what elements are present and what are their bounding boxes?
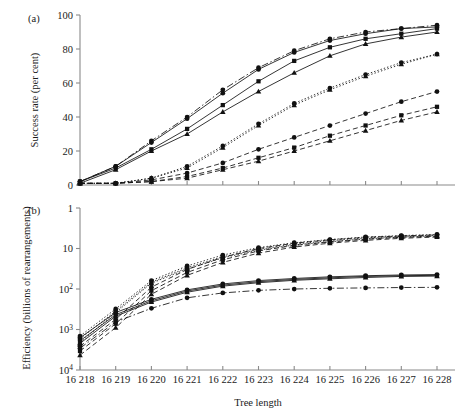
x-axis-tick-label: 16 222 bbox=[208, 374, 237, 385]
data-point-circle bbox=[113, 320, 118, 325]
x-axis-tick-label: 16 220 bbox=[137, 374, 166, 385]
data-point-circle bbox=[292, 135, 297, 140]
x-axis-label: Tree length bbox=[234, 397, 282, 408]
data-point-square bbox=[363, 37, 367, 41]
x-axis-tick-label: 16 219 bbox=[101, 374, 130, 385]
panel-a-y-axis-label: Success rate (per cent) bbox=[29, 52, 41, 147]
x-axis-tick-label: 16 221 bbox=[173, 374, 202, 385]
x-axis-tick-label: 16 225 bbox=[315, 374, 344, 385]
data-point-circle bbox=[185, 295, 190, 300]
y-axis-tick-label: 40 bbox=[63, 112, 74, 123]
data-point-circle bbox=[363, 111, 368, 116]
data-point-square bbox=[185, 127, 189, 131]
panel-a-tag: (a) bbox=[28, 13, 40, 25]
data-point-circle bbox=[220, 91, 225, 96]
data-point-circle bbox=[256, 67, 261, 72]
data-point-square bbox=[328, 45, 332, 49]
data-point-circle bbox=[328, 123, 333, 128]
data-point-circle bbox=[149, 140, 154, 145]
x-axis-tick-label: 16 218 bbox=[66, 374, 95, 385]
scientific-figure: 020406080100 11010210310416 21816 21916 … bbox=[0, 0, 457, 418]
y-axis-tick-label: 60 bbox=[63, 78, 74, 89]
data-point-circle bbox=[363, 286, 368, 291]
data-point-circle bbox=[328, 38, 333, 43]
y-axis-tick-label: 80 bbox=[63, 44, 74, 55]
data-point-circle bbox=[292, 287, 297, 292]
data-point-circle bbox=[363, 31, 368, 36]
x-axis-tick-label: 16 223 bbox=[244, 374, 273, 385]
y-axis-tick-label: 0 bbox=[68, 180, 73, 191]
x-axis-tick-label: 16 227 bbox=[387, 374, 416, 385]
data-point-square bbox=[363, 123, 367, 127]
panel-b-y-axis-label: Efficiency (billions of rearrangements) bbox=[21, 206, 33, 370]
data-point-circle bbox=[113, 164, 118, 169]
data-point-circle bbox=[256, 147, 261, 152]
data-point-circle bbox=[328, 286, 333, 291]
data-point-circle bbox=[292, 50, 297, 55]
data-point-square bbox=[399, 113, 403, 117]
data-point-circle bbox=[399, 285, 404, 290]
data-point-circle bbox=[435, 285, 440, 290]
data-point-circle bbox=[220, 291, 225, 296]
x-axis-tick-label: 16 224 bbox=[280, 374, 310, 385]
y-axis-tick-label: 20 bbox=[63, 146, 74, 157]
y-axis-tick-label: 100 bbox=[57, 10, 73, 21]
data-point-circle bbox=[78, 346, 83, 351]
data-point-square bbox=[221, 103, 225, 107]
x-axis-tick-label: 16 228 bbox=[423, 374, 452, 385]
data-point-circle bbox=[256, 288, 261, 293]
data-point-circle bbox=[185, 116, 190, 121]
data-point-square bbox=[256, 79, 260, 83]
y-axis-tick-label: 1 bbox=[68, 203, 73, 214]
data-point-circle bbox=[435, 89, 440, 94]
data-point-circle bbox=[149, 306, 154, 311]
x-axis-tick-label: 16 226 bbox=[351, 374, 380, 385]
data-point-circle bbox=[220, 161, 225, 166]
data-point-circle bbox=[435, 25, 440, 30]
data-point-circle bbox=[399, 26, 404, 31]
data-point-square bbox=[435, 105, 439, 109]
y-axis-tick-label: 10 bbox=[63, 243, 74, 254]
figure-container: 020406080100 11010210310416 21816 21916 … bbox=[0, 0, 457, 418]
data-point-square bbox=[328, 134, 332, 138]
data-point-square bbox=[292, 59, 296, 63]
data-point-circle bbox=[399, 99, 404, 104]
